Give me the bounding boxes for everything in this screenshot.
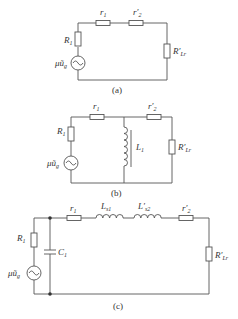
resistor-Rload-c xyxy=(206,247,212,261)
label-r2p-a: r′2 xyxy=(133,7,141,18)
label-Rload-b: R′Lr xyxy=(177,142,192,153)
label-Rload-a: R′Lr xyxy=(172,46,187,57)
caption-b: (b) xyxy=(111,188,122,198)
label-R1-a: R1 xyxy=(63,35,73,46)
inductor-L1-icon-b xyxy=(124,127,131,167)
label-source-c: μũg xyxy=(7,268,20,279)
label-Ls1-c: Ls1 xyxy=(100,201,111,212)
resistor-r1-c xyxy=(67,216,81,221)
label-R1-b: R1 xyxy=(56,126,66,137)
label-R1-c: R1 xyxy=(16,233,26,244)
circuit-b: R1 μũg r1 L1 r′2 R′Lr (b) xyxy=(46,101,192,198)
label-r1-b: r1 xyxy=(93,101,100,112)
resistor-r1-b xyxy=(90,115,104,120)
inductor-Ls1-icon-c xyxy=(96,214,123,219)
label-Ls2p-c: L′s2 xyxy=(137,201,150,212)
label-r1-c: r1 xyxy=(70,203,77,214)
circuit-diagram: R1 μũg r1 r′2 R′Lr (a) R1 μũg xyxy=(0,0,238,319)
label-r2p-b: r′2 xyxy=(148,101,156,112)
junction-dot-bottom xyxy=(48,292,52,296)
caption-c: (c) xyxy=(113,301,123,311)
ac-source-icon-c xyxy=(27,266,41,280)
label-source-a: μũg xyxy=(54,58,67,69)
resistor-Rload-b xyxy=(169,140,175,154)
label-C1-c: C1 xyxy=(58,247,67,258)
junction-dot-top xyxy=(48,216,52,220)
resistor-r2p-c xyxy=(179,216,193,221)
resistor-R1-c xyxy=(31,233,37,247)
resistor-r1-a xyxy=(96,21,110,26)
inductor-Ls2p-icon-c xyxy=(134,214,161,219)
caption-a: (a) xyxy=(112,85,122,95)
label-L1-b: L1 xyxy=(135,142,144,153)
resistor-R1-a xyxy=(75,32,81,46)
resistor-r2p-b xyxy=(147,115,161,120)
label-r1-a: r1 xyxy=(100,7,107,18)
circuit-c: R1 μũg C1 r1 Ls1 L′s2 r′2 R′Lr (c) xyxy=(7,201,229,311)
resistor-Rload-a xyxy=(164,44,170,58)
resistor-R1-b xyxy=(68,127,74,141)
ac-source-icon-a xyxy=(71,56,85,70)
resistor-r2p-a xyxy=(129,21,143,26)
capacitor-C1-icon-c xyxy=(44,250,56,254)
label-Rload-c: R′Lr xyxy=(214,250,229,261)
circuit-a: R1 μũg r1 r′2 R′Lr (a) xyxy=(54,7,187,95)
ac-source-icon-b xyxy=(64,156,78,170)
label-r2p-c: r′2 xyxy=(182,203,190,214)
label-source-b: μũg xyxy=(46,158,59,169)
